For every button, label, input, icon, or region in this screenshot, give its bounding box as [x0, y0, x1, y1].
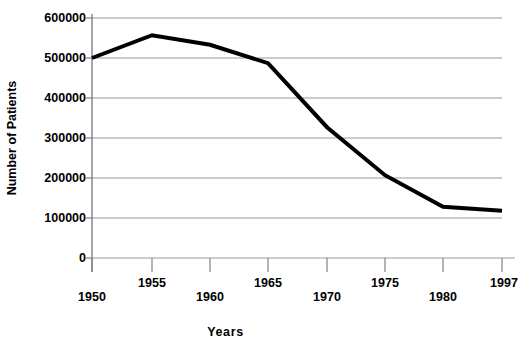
- x-tick-label: 1960: [196, 291, 224, 304]
- data-series-line: [92, 35, 502, 211]
- x-tick-label: 1975: [371, 277, 399, 290]
- x-tick-label: 1955: [138, 277, 166, 290]
- gridlines: [92, 18, 502, 218]
- x-axis-title-text: Years: [207, 325, 243, 339]
- x-tick-label: 1950: [78, 291, 106, 304]
- y-axis-ticks: [85, 18, 92, 258]
- x-tick-label: 1970: [313, 291, 341, 304]
- x-tick-label: 1997: [490, 277, 518, 290]
- x-axis-ticks: [92, 258, 502, 272]
- x-tick-label: 1965: [254, 277, 282, 290]
- x-tick-label: 1980: [429, 291, 457, 304]
- line-chart: Number of Patients 600000 500000 400000 …: [0, 0, 531, 353]
- x-axis-title: Years: [0, 325, 531, 339]
